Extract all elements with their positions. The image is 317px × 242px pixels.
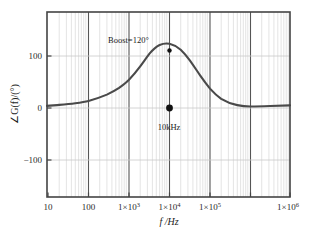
boost-annotation: Boost=120° — [108, 35, 149, 45]
x-tick-label-10: 10 — [44, 202, 54, 212]
x-tick-label-1e6: 1×106 — [277, 201, 300, 212]
x-tick-label-1e5: 1×105 — [199, 201, 221, 212]
x-tick-label-1e4: 1×104 — [159, 201, 182, 212]
x-tick-label-1e3: 1×103 — [118, 201, 140, 212]
x-tick-label-100: 100 — [82, 202, 96, 212]
marker-10khz-curve — [167, 48, 171, 52]
bode-phase-figure: 100 0 −100 ∠G(f)/(°) 10 100 1×103 1×104 … — [0, 0, 317, 242]
marker-10khz-zero — [166, 105, 173, 112]
phase-plot-svg: 100 0 −100 ∠G(f)/(°) 10 100 1×103 1×104 … — [0, 0, 317, 242]
x-axis-title: f /Hz — [159, 216, 178, 227]
frequency-marker-label: 10kHz — [158, 122, 181, 132]
y-tick-label-0: 0 — [38, 103, 43, 113]
y-tick-label-neg100: −100 — [23, 155, 42, 165]
y-axis-title: ∠G(f)/(°) — [9, 84, 21, 124]
y-tick-label-100: 100 — [29, 51, 43, 61]
